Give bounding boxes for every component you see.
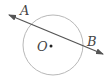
circle-secant-diagram: A B O (0, 0, 109, 79)
label-b: B (86, 34, 97, 49)
label-a: A (19, 3, 29, 18)
label-o: O (37, 39, 48, 54)
center-point (50, 45, 53, 48)
